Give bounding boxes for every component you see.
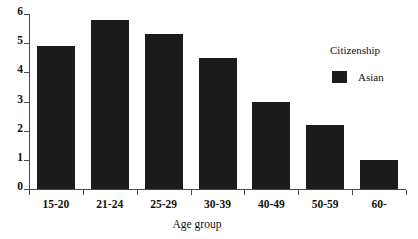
x-axis-title: Age group [0,218,418,230]
bar[interactable] [360,160,398,189]
x-axis-tick-mark [137,190,138,195]
x-axis-tick-label: 15-20 [29,198,83,210]
y-axis-tick-label: 6 [17,6,23,18]
bar[interactable] [252,102,290,190]
y-axis-tick-mark [24,102,29,103]
x-axis-tick-mark [244,190,245,195]
x-axis-tick-label: 60- [352,198,406,210]
x-axis-tick-mark [83,190,84,195]
bar-chart: 0123456 15-2021-2425-2930-3940-4950-5960… [0,0,418,239]
x-axis-tick-label: 40-49 [244,198,298,210]
y-axis-tick-mark [24,72,29,73]
x-axis-tick-mark [352,190,353,195]
y-axis-tick-mark [24,160,29,161]
y-axis-tick-label: 0 [17,181,23,193]
x-axis-tick-mark [298,190,299,195]
legend: Citizenship Asian [322,44,416,83]
x-axis-tick-label: 50-59 [298,198,352,210]
y-axis-tick-label: 2 [17,123,23,135]
y-axis-tick-label: 3 [17,94,23,106]
y-axis-tick-mark [24,43,29,44]
x-axis-tick-mark [406,190,407,195]
x-axis-tick-label: 30-39 [191,198,245,210]
x-axis-tick-mark [191,190,192,195]
bar[interactable] [145,34,183,189]
bar[interactable] [37,46,75,189]
y-axis-tick-mark [24,14,29,15]
y-axis-tick-mark [24,131,29,132]
y-axis-tick-label: 1 [17,152,23,164]
y-axis-tick-label: 5 [17,35,23,47]
x-axis-tick-mark [29,190,30,195]
legend-item-label: Asian [358,71,384,83]
x-axis-tick-label: 21-24 [83,198,137,210]
x-axis-tick-label: 25-29 [137,198,191,210]
legend-item-asian[interactable]: Asian [322,71,416,83]
y-axis-tick-label: 4 [17,64,23,76]
x-axis-title-text: Age group [173,218,222,230]
y-axis-line [29,14,30,189]
legend-swatch-icon [332,71,347,83]
bar[interactable] [306,125,344,189]
x-axis-line [29,189,406,190]
bar[interactable] [199,58,237,189]
bar[interactable] [91,20,129,189]
legend-title: Citizenship [322,44,416,56]
